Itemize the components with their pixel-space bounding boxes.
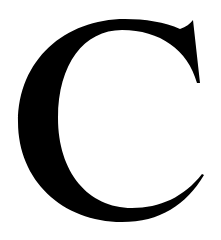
letter-c-shape: [18, 19, 204, 222]
letter-canvas: C: [0, 0, 221, 240]
letter-c-glyph: [0, 0, 221, 240]
